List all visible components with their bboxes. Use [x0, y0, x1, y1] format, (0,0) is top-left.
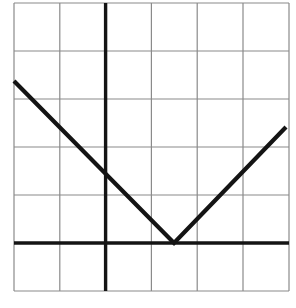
graph-figure [0, 0, 296, 308]
plot-background [0, 0, 296, 308]
graph-canvas [0, 0, 296, 308]
